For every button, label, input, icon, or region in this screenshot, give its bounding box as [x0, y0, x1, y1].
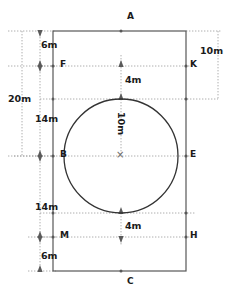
arrow-6m-bot-up [37, 236, 42, 243]
diagram-canvas: A F K B E M H C × 6m 10m 20m 14m 4m 10m … [0, 0, 228, 301]
arrow-14m-bot-up [37, 155, 42, 162]
dimension-label-top-clearance: 4m [125, 75, 142, 85]
circle-center-marker: × [116, 150, 124, 160]
dimension-label-upper-radius: 14m [35, 114, 58, 124]
dimension-label-top-gap: 6m [41, 40, 58, 50]
point-label-m: M [60, 231, 69, 240]
dimension-label-radius-vertical: 10m [117, 112, 127, 135]
dimension-label-lower-radius: 14m [35, 202, 58, 212]
point-label-b: B [60, 150, 67, 159]
dimension-label-right-depth: 10m [200, 46, 223, 56]
arrow-6m-top-up [37, 30, 42, 37]
point-label-k: K [190, 60, 197, 69]
arrow-4m-top-up [118, 60, 123, 67]
arrow-6m-bot-down [37, 265, 42, 272]
point-label-e: E [190, 150, 196, 159]
point-label-f: F [60, 60, 66, 69]
dimension-label-bottom-gap: 6m [41, 251, 58, 261]
dimension-label-bottom-clearance: 4m [125, 221, 142, 231]
arrow-14m-top-up [37, 65, 42, 72]
point-label-a: A [127, 12, 134, 21]
dimension-label-total-height: 20m [8, 94, 31, 104]
arrow-4m-bot-down [118, 236, 123, 243]
point-label-h: H [190, 231, 198, 240]
point-label-c: C [127, 277, 134, 286]
